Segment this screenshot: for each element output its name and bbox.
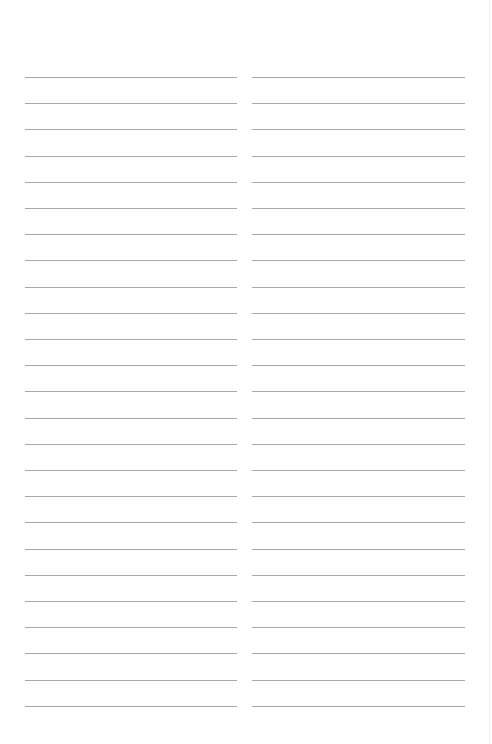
writing-line — [25, 77, 237, 78]
writing-line — [25, 208, 237, 209]
writing-line — [25, 706, 237, 707]
writing-line — [25, 549, 237, 550]
writing-line — [252, 339, 465, 340]
writing-line — [25, 522, 237, 523]
writing-line — [25, 627, 237, 628]
writing-line — [252, 103, 465, 104]
writing-line — [252, 470, 465, 471]
writing-line — [25, 496, 237, 497]
writing-line — [25, 601, 237, 602]
writing-line — [25, 680, 237, 681]
writing-line — [25, 470, 237, 471]
writing-line — [25, 182, 237, 183]
writing-line — [25, 156, 237, 157]
writing-line — [252, 522, 465, 523]
writing-line — [25, 444, 237, 445]
writing-line — [252, 549, 465, 550]
writing-line — [25, 260, 237, 261]
writing-line — [252, 234, 465, 235]
writing-line — [25, 103, 237, 104]
writing-line — [252, 627, 465, 628]
lined-page — [0, 0, 490, 744]
writing-line — [252, 129, 465, 130]
right-column — [252, 0, 465, 744]
writing-line — [252, 418, 465, 419]
writing-line — [252, 77, 465, 78]
writing-line — [25, 234, 237, 235]
writing-line — [252, 156, 465, 157]
writing-line — [252, 391, 465, 392]
writing-line — [25, 287, 237, 288]
writing-line — [252, 182, 465, 183]
writing-line — [25, 339, 237, 340]
writing-line — [252, 601, 465, 602]
writing-line — [252, 287, 465, 288]
writing-line — [252, 365, 465, 366]
writing-line — [252, 653, 465, 654]
writing-line — [252, 575, 465, 576]
writing-line — [25, 418, 237, 419]
writing-line — [252, 208, 465, 209]
writing-line — [252, 313, 465, 314]
writing-line — [252, 444, 465, 445]
writing-line — [252, 680, 465, 681]
writing-line — [25, 391, 237, 392]
writing-line — [25, 653, 237, 654]
writing-line — [252, 706, 465, 707]
writing-line — [25, 575, 237, 576]
writing-line — [252, 260, 465, 261]
writing-line — [25, 129, 237, 130]
writing-line — [25, 313, 237, 314]
writing-line — [25, 365, 237, 366]
left-column — [25, 0, 237, 744]
writing-line — [252, 496, 465, 497]
